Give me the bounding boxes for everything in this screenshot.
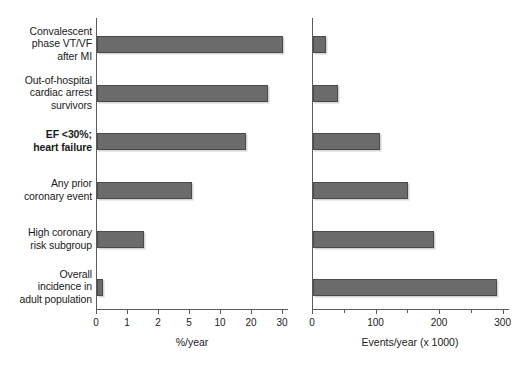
- bar-percent-1: [97, 85, 268, 102]
- x-minortick-right-50: [344, 310, 345, 313]
- category-label-5: Overallincidence inadult population: [0, 268, 92, 305]
- x-ticklabel-left-30: 30: [276, 317, 287, 328]
- x-ticklabel-right-0: 0: [309, 317, 315, 328]
- x-tick-left-20: [251, 310, 252, 314]
- y-axis-line-left: [96, 18, 97, 310]
- x-tick-right-300: [503, 310, 504, 314]
- x-ticklabel-right-200: 200: [431, 317, 448, 328]
- bar-events-3: [313, 182, 408, 199]
- x-ticklabel-left-10: 10: [214, 317, 225, 328]
- bar-events-5: [313, 279, 497, 296]
- x-axis-line-right: [312, 309, 509, 310]
- x-axis-title-left: %/year: [176, 336, 209, 348]
- x-ticklabel-right-300: 300: [494, 317, 511, 328]
- category-label-4: High coronaryrisk subgroup: [0, 226, 92, 250]
- category-label-column: Convalescentphase VT/VFafter MI Out-of-h…: [0, 18, 92, 310]
- x-minortick-right-150: [407, 310, 408, 313]
- x-tick-right-0: [312, 310, 313, 314]
- bar-percent-4: [97, 231, 144, 248]
- x-tick-left-10: [220, 310, 221, 314]
- figure-sudden-cardiac-death-risk: Convalescentphase VT/VFafter MI Out-of-h…: [0, 0, 525, 367]
- x-axis-title-right: Events/year (x 1000): [362, 336, 459, 348]
- x-tick-left-5: [189, 310, 190, 314]
- y-axis-line-right: [312, 18, 313, 310]
- x-minortick-right-250: [471, 310, 472, 313]
- panel-events-per-year: 0100200300: [312, 18, 509, 310]
- x-tick-left-1: [127, 310, 128, 314]
- bar-events-1: [313, 85, 338, 102]
- bar-percent-5: [97, 279, 103, 296]
- category-label-2: EF <30%;heart failure: [0, 128, 92, 152]
- x-ticklabel-left-5: 5: [186, 317, 192, 328]
- panel-percent-per-year: 0125102030: [96, 18, 293, 310]
- x-ticklabel-left-0: 0: [93, 317, 99, 328]
- category-label-3: Any priorcoronary event: [0, 177, 92, 201]
- bar-events-2: [313, 133, 380, 150]
- x-ticklabel-right-100: 100: [367, 317, 384, 328]
- bar-events-0: [313, 36, 326, 53]
- x-ticklabel-left-1: 1: [124, 317, 130, 328]
- x-ticklabel-left-2: 2: [155, 317, 161, 328]
- x-tick-left-0: [96, 310, 97, 314]
- x-ticklabel-left-20: 20: [245, 317, 256, 328]
- category-label-1: Out-of-hospitalcardiac arrestsurvivors: [0, 74, 92, 111]
- x-axis-line-left: [96, 309, 288, 310]
- bar-events-4: [313, 231, 434, 248]
- bar-percent-0: [97, 36, 283, 53]
- bar-percent-2: [97, 133, 246, 150]
- x-tick-left-2: [158, 310, 159, 314]
- x-tick-right-200: [439, 310, 440, 314]
- bar-percent-3: [97, 182, 192, 199]
- x-tick-right-100: [376, 310, 377, 314]
- x-tick-left-30: [282, 310, 283, 314]
- category-label-0: Convalescentphase VT/VFafter MI: [0, 25, 92, 62]
